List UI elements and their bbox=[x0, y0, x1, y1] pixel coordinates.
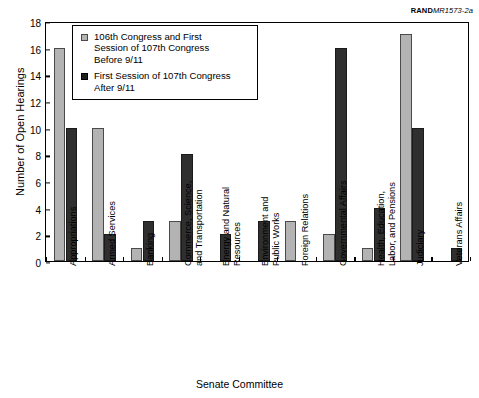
y-tick-mark bbox=[46, 209, 50, 210]
y-tick-mark bbox=[46, 156, 50, 157]
y-tick-label: 8 bbox=[35, 151, 41, 162]
bar-before bbox=[323, 234, 335, 261]
x-tick-mark bbox=[354, 257, 355, 261]
y-tick-mark bbox=[46, 22, 50, 23]
y-tick-mark bbox=[46, 236, 50, 237]
x-category-label: Governmental Affairs bbox=[338, 180, 349, 266]
legend-label-before: 106th Congress and First Session of 107t… bbox=[94, 31, 209, 65]
credit-brand: RAND bbox=[411, 6, 433, 15]
x-category-label: Appropriations bbox=[68, 207, 79, 266]
credit-doc: MR1573-2a bbox=[433, 6, 473, 15]
x-category-label: Banking bbox=[145, 233, 156, 266]
y-axis-title: Number of Open Hearings bbox=[14, 68, 26, 196]
x-category-label: Health, Education, Labor, and Pensions bbox=[376, 182, 397, 266]
x-tick-mark bbox=[123, 257, 124, 261]
x-category-label: Energy and Natural Resources bbox=[221, 187, 242, 266]
legend-swatch-dark-icon bbox=[81, 73, 88, 80]
y-tick-mark bbox=[46, 262, 50, 263]
x-tick-mark bbox=[85, 257, 86, 261]
x-tick-mark bbox=[46, 257, 47, 261]
y-tick-mark bbox=[46, 102, 50, 103]
y-tick-label: 4 bbox=[35, 204, 41, 215]
bar-before bbox=[169, 221, 181, 261]
y-tick-label: 10 bbox=[30, 124, 41, 135]
legend-item-after: First Session of 107th Congress After 9/… bbox=[79, 70, 251, 93]
x-tick-mark bbox=[162, 257, 163, 261]
y-tick-label: 12 bbox=[30, 98, 41, 109]
x-category-label: Environment and Public Works bbox=[260, 197, 281, 266]
legend-label-after: First Session of 107th Congress After 9/… bbox=[94, 70, 231, 93]
y-tick-mark bbox=[46, 182, 50, 183]
bar-before bbox=[400, 34, 412, 261]
y-tick-mark bbox=[46, 129, 50, 130]
bar-before bbox=[92, 128, 104, 261]
chart-figure: RANDMR1573-2a Number of Open Hearings 02… bbox=[0, 0, 479, 398]
y-tick-label: 14 bbox=[30, 71, 41, 82]
rand-source-credit: RANDMR1573-2a bbox=[411, 6, 473, 15]
y-tick-mark bbox=[46, 49, 50, 50]
y-tick-label: 6 bbox=[35, 178, 41, 189]
x-category-label: Judiciary bbox=[415, 230, 426, 266]
y-tick-label: 2 bbox=[35, 231, 41, 242]
x-axis-title: Senate Committee bbox=[0, 378, 479, 390]
x-tick-mark bbox=[316, 257, 317, 261]
y-tick-label: 0 bbox=[35, 258, 41, 269]
bar-before bbox=[54, 48, 66, 261]
y-tick-label: 16 bbox=[30, 44, 41, 55]
chart-legend: 106th Congress and First Session of 107t… bbox=[72, 25, 258, 100]
x-tick-mark bbox=[431, 257, 432, 261]
legend-item-before: 106th Congress and First Session of 107t… bbox=[79, 31, 251, 65]
legend-swatch-light-icon bbox=[81, 34, 88, 41]
bar-before bbox=[131, 248, 143, 261]
bar-before bbox=[362, 248, 374, 261]
x-category-label: Commerce, Science, and Transportation bbox=[183, 181, 204, 266]
bar-before bbox=[285, 221, 297, 261]
x-tick-mark bbox=[470, 257, 471, 261]
x-category-label: Foreign Relations bbox=[300, 194, 311, 266]
x-category-label: Veterans Affairs bbox=[454, 202, 465, 266]
y-tick-mark bbox=[46, 76, 50, 77]
x-category-label: Armed Services bbox=[107, 201, 118, 266]
y-tick-label: 18 bbox=[30, 18, 41, 29]
